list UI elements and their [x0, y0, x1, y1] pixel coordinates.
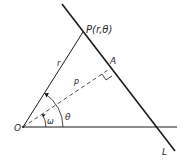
- label-P: P(r,θ): [86, 24, 112, 35]
- origin-point: [22, 126, 24, 128]
- label-O: O: [14, 123, 21, 133]
- label-theta: θ: [65, 112, 71, 122]
- label-A: A: [109, 56, 116, 66]
- polar-line-diagram: P(r,θ) A O L r p θ ω: [0, 0, 188, 161]
- label-L: L: [162, 147, 167, 157]
- label-r: r: [57, 59, 61, 68]
- label-p: p: [73, 77, 79, 86]
- label-omega: ω: [47, 117, 54, 126]
- right-angle-marker: [102, 74, 112, 80]
- arrowhead-theta: [45, 93, 50, 98]
